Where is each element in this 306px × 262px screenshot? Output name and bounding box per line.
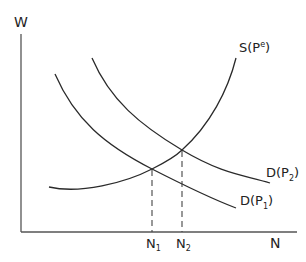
n2-marker-label: N2: [176, 236, 191, 253]
n1-marker-label: N1: [146, 236, 161, 253]
demand-curve-p2-label: D(P2): [266, 165, 299, 183]
y-axis-label: W: [14, 14, 28, 30]
supply-curve-label: S(Pe): [239, 40, 270, 55]
demand-curve-p2: [92, 58, 270, 183]
demand-curve-p1: [55, 74, 236, 208]
x-axis-label: N: [270, 235, 280, 251]
demand-curve-p1-label: D(P1): [240, 193, 273, 211]
labor-market-diagram: W N S(Pe) D(P2) D(P1) N1 N2: [0, 0, 306, 262]
